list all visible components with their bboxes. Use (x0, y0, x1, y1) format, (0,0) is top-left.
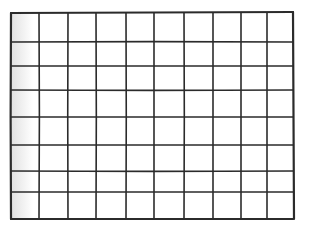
grid-border (293, 12, 294, 219)
hand-drawn-grid (0, 0, 311, 236)
grid-border (11, 12, 293, 13)
